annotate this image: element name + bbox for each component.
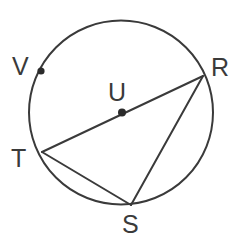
vertex-label-T: T	[11, 146, 26, 171]
point-dot-V	[37, 67, 44, 74]
chord-R-S	[131, 76, 203, 205]
geometry-diagram: V R U T S	[0, 0, 243, 252]
point-dot-U-center	[118, 109, 126, 117]
vertex-label-U: U	[108, 80, 126, 105]
vertex-label-R: R	[211, 55, 229, 80]
vertex-label-V: V	[12, 54, 29, 79]
vertex-label-S: S	[122, 212, 139, 237]
